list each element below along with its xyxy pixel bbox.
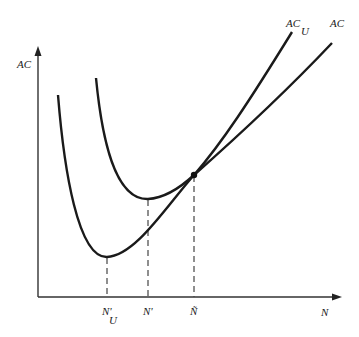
axes bbox=[35, 46, 343, 301]
curve-ac-u bbox=[58, 32, 292, 257]
svg-text:AC: AC bbox=[285, 17, 301, 29]
dashed-guides bbox=[107, 176, 194, 297]
curve-label-ac-u: AC U bbox=[285, 17, 310, 37]
intersection-point bbox=[191, 172, 197, 178]
x-axis-label: N bbox=[320, 306, 329, 318]
curve-label-ac: AC bbox=[329, 17, 345, 29]
curve-ac bbox=[96, 43, 332, 199]
x-axis-arrow-icon bbox=[332, 294, 342, 301]
cost-curves-diagram: AC N AC U AC N' U N' Ñ bbox=[0, 0, 359, 337]
tick-label-ntilde: Ñ bbox=[189, 305, 198, 317]
y-axis-arrow-icon bbox=[35, 46, 42, 56]
y-axis-label: AC bbox=[16, 58, 32, 70]
svg-text:U: U bbox=[301, 25, 310, 37]
tick-label-nprime: N' bbox=[142, 305, 153, 317]
svg-text:U: U bbox=[109, 314, 118, 326]
tick-label-nu: N' U bbox=[101, 305, 118, 326]
